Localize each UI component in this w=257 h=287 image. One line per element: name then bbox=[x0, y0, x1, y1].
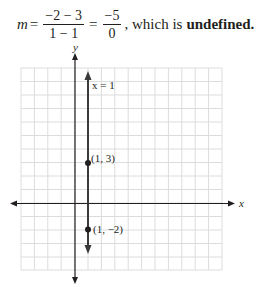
arrow-down-icon bbox=[72, 277, 78, 284]
x-axis-label: x bbox=[238, 197, 244, 209]
x-axis bbox=[10, 201, 235, 207]
line-label: x = 1 bbox=[92, 79, 115, 91]
arrow-down-icon bbox=[85, 245, 92, 254]
point-1-neg2 bbox=[85, 227, 91, 233]
grid bbox=[21, 68, 222, 270]
y-axis-label: y bbox=[72, 41, 78, 53]
point-label-1-neg2: (1, −2) bbox=[93, 223, 123, 236]
arrow-up-icon bbox=[72, 53, 78, 60]
y-axis bbox=[72, 53, 78, 284]
point-label-1-3: (1, 3) bbox=[91, 152, 115, 165]
coordinate-graph: y x x = 1 (1, 3) (1, −2) bbox=[0, 0, 257, 287]
arrow-right-icon bbox=[228, 201, 235, 207]
arrow-up-icon bbox=[85, 71, 92, 80]
arrow-left-icon bbox=[10, 201, 17, 207]
